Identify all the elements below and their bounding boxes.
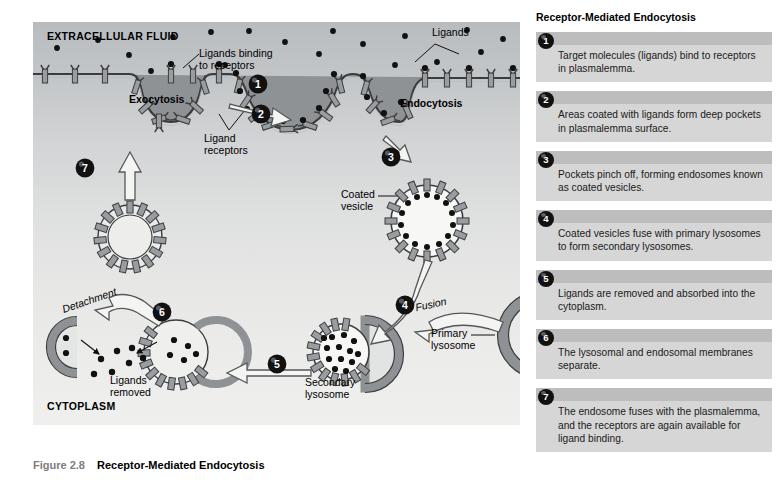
step-item: 2 Areas coated with ligands form deep po…: [536, 91, 772, 141]
ligand-receptors-line-2: receptors: [204, 144, 248, 156]
endosome-releasing-ligands: [138, 320, 248, 390]
diagram-step-badge-1: 1: [249, 75, 268, 94]
endocytosis-label: Endocytosis: [400, 97, 462, 109]
step-text-7: The endosome fuses with the plasmalemma,…: [536, 401, 772, 452]
secondary-lysosome-label: Secondary lysosome: [305, 376, 355, 400]
endocytosis-diagram-graphic: 1 2 3 4 5: [33, 22, 520, 425]
step-header-strip: [536, 329, 772, 342]
secondary-lysosome-line-2: lysosome: [305, 388, 355, 400]
primary-lysosome-line-1: Primary: [431, 327, 475, 339]
ligand-receptors-line-1: Ligand: [204, 132, 248, 144]
step-badge-1: 1: [538, 33, 554, 49]
figure-caption: Figure 2.8 Receptor-Mediated Endocytosis: [33, 459, 265, 471]
ligand-receptors-label: Ligand receptors: [204, 132, 248, 156]
coated-vesicle-line-1: Coated: [341, 188, 375, 200]
svg-text:3: 3: [388, 151, 394, 163]
steps-panel: Receptor-Mediated Endocytosis 1 Target m…: [536, 11, 772, 461]
diagram-step-badge-7: 7: [76, 159, 95, 178]
coated-vesicle: [385, 179, 469, 263]
svg-text:5: 5: [274, 358, 280, 370]
diagram-step-badge-2: 2: [252, 105, 271, 124]
step-header-strip: [536, 91, 772, 104]
step-header-strip: [536, 270, 772, 283]
svg-text:6: 6: [159, 306, 165, 318]
diagram-step-badge-3: 3: [382, 148, 401, 167]
diagram-step-badge-5: 5: [268, 355, 287, 374]
step-text-2: Areas coated with ligands form deep pock…: [536, 104, 772, 141]
step-text-1: Target molecules (ligands) bind to recep…: [536, 45, 772, 82]
step-header-strip: [536, 32, 772, 45]
step-text-4: Coated vesicles fuse with primary lysoso…: [536, 223, 772, 260]
step-item: 5 Ligands are removed and absorbed into …: [536, 270, 772, 320]
step-badge-3: 3: [538, 152, 554, 168]
primary-lysosome: [498, 292, 521, 379]
svg-text:4: 4: [402, 299, 408, 311]
step-text-5: Ligands are removed and absorbed into th…: [536, 283, 772, 320]
detached-membrane-fragment: [46, 317, 77, 378]
svg-text:2: 2: [258, 108, 264, 120]
coated-vesicle-line-2: vesicle: [341, 200, 375, 212]
step-item: 1 Target molecules (ligands) bind to rec…: [536, 32, 772, 82]
secondary-lysosome-line-1: Secondary: [305, 376, 355, 388]
extracellular-fluid-label: EXTRACELLULAR FLUID: [47, 30, 179, 42]
svg-text:7: 7: [82, 162, 88, 174]
step-badge-5: 5: [538, 271, 554, 287]
step-item: 3 Pockets pinch off, forming endosomes k…: [536, 151, 772, 201]
recycled-endosome-ring: [94, 201, 166, 273]
ligands-removed-line-1: Ligands: [110, 374, 151, 386]
diagram-step-badge-6: 6: [153, 303, 172, 322]
step-header-strip: [536, 151, 772, 164]
primary-lysosome-line-2: lysosome: [431, 339, 475, 351]
exocytosis-label: Exocytosis: [129, 93, 184, 105]
svg-text:1: 1: [255, 78, 261, 90]
ligands-binding-line-2: to receptors: [199, 59, 273, 71]
ligands-binding-line-1: Ligands binding: [199, 47, 273, 59]
figure-title: Receptor-Mediated Endocytosis: [97, 459, 264, 471]
step-text-6: The lysosomal and endosomal membranes se…: [536, 342, 772, 379]
coated-vesicle-label: Coated vesicle: [341, 188, 375, 212]
ligands-removed-label: Ligands removed: [110, 374, 151, 398]
ligands-removed-line-2: removed: [110, 386, 151, 398]
primary-lysosome-label: Primary lysosome: [431, 327, 475, 351]
ligands-binding-label: Ligands binding to receptors: [199, 47, 273, 71]
ligands-label: Ligands: [432, 26, 469, 38]
diagram-step-badge-4: 4: [396, 296, 415, 315]
step-item: 6 The lysosomal and endosomal membranes …: [536, 329, 772, 379]
step-text-3: Pockets pinch off, forming endosomes kno…: [536, 164, 772, 201]
figure-number: Figure 2.8: [33, 459, 85, 471]
diagram-panel: 1 2 3 4 5: [33, 22, 520, 425]
step-header-strip: [536, 210, 772, 223]
cytoplasm-label: CYTOPLASM: [47, 400, 115, 412]
released-ligand-dots: [91, 345, 146, 377]
step-header-strip: [536, 388, 772, 401]
step-item: 7 The endosome fuses with the plasmalemm…: [536, 388, 772, 452]
step-item: 4 Coated vesicles fuse with primary lyso…: [536, 210, 772, 260]
step-badge-6: 6: [538, 330, 554, 346]
steps-panel-title: Receptor-Mediated Endocytosis: [536, 11, 772, 23]
